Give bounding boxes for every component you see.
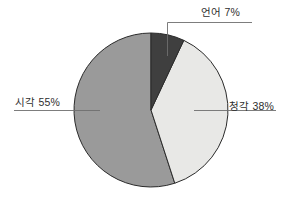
pie-label-auditory: 청각 38% bbox=[229, 101, 274, 113]
pie-label-language: 언어 7% bbox=[201, 7, 240, 19]
pie-label-visual: 시각 55% bbox=[15, 97, 60, 109]
pie-chart: 언어 7% 시각 55% 청각 38% bbox=[0, 0, 288, 204]
